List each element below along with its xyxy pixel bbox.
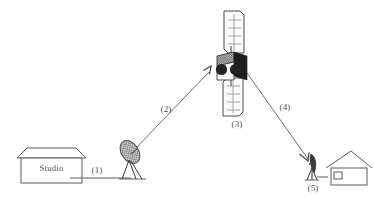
label-uplink: (2) (160, 104, 171, 114)
satellite-icon (216, 11, 247, 116)
label-downlink: (4) (279, 102, 290, 112)
label-receiver: (5) (307, 183, 318, 193)
house-window (334, 172, 342, 179)
satellite-antenna-left (216, 64, 227, 75)
label-cable: (1) (91, 165, 102, 175)
diagram-canvas: Studio (0, 0, 374, 199)
downlink-signal-path (247, 73, 309, 161)
label-satellite: (3) (231, 119, 242, 129)
satellite-antenna-right (230, 64, 241, 75)
studio-label: Studio (39, 163, 63, 173)
house-icon (326, 151, 372, 185)
uplink-dish-icon (116, 137, 146, 179)
satellite-broadcast-diagram: Studio (0, 0, 374, 199)
uplink-signal-path (136, 66, 211, 148)
